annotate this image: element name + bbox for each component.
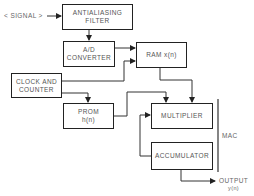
filter-label-line2: FILTER: [85, 17, 109, 25]
signal-input-label: < SIGNAL >: [4, 12, 43, 19]
ad-converter-block: A/D CONVERTER: [63, 41, 115, 67]
clock-counter-block: CLOCK AND COUNTER: [11, 73, 62, 98]
clock-label-line2: COUNTER: [19, 86, 54, 94]
adc-label-line2: CONVERTER: [67, 54, 111, 62]
filter-label-line1: ANTIALIASING: [73, 9, 123, 17]
adc-label-line1: A/D: [83, 46, 95, 54]
output-signal-label: y(n): [228, 185, 239, 191]
multiplier-label: MULTIPLIER: [161, 112, 203, 120]
antialiasing-filter-block: ANTIALIASING FILTER: [62, 4, 133, 30]
prom-label-line1: PROM: [78, 108, 99, 116]
output-label: OUTPUT: [219, 177, 248, 184]
ram-block: RAM x(n): [136, 42, 187, 68]
accumulator-block: ACCUMULATOR: [151, 142, 213, 170]
accumulator-label: ACCUMULATOR: [155, 152, 209, 160]
prom-label-line2: h(n): [82, 116, 95, 124]
clock-label-line1: CLOCK AND: [16, 78, 57, 86]
multiplier-block: MULTIPLIER: [151, 103, 213, 129]
ram-label: RAM x(n): [146, 51, 177, 59]
prom-block: PROM h(n): [63, 103, 114, 129]
mac-group-label: MAC: [222, 132, 238, 139]
